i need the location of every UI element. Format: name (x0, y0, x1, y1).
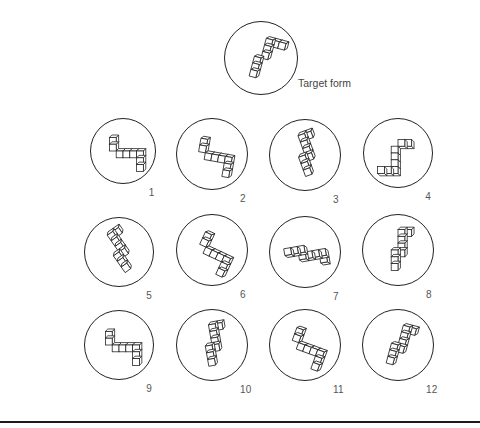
option-circle-3 (269, 119, 341, 191)
cube-chain-shape-icon (363, 215, 433, 285)
cube-chain-shape-icon (363, 310, 433, 380)
cube-chain-shape-icon (85, 218, 153, 286)
option-circle-12 (362, 309, 434, 381)
option-number-9: 9 (146, 384, 152, 394)
option-number-10: 10 (240, 385, 251, 395)
option-circle-8 (362, 214, 434, 286)
option-number-12: 12 (426, 385, 437, 395)
option-number-2: 2 (240, 194, 246, 204)
option-circle-6 (176, 214, 248, 286)
option-number-6: 6 (240, 290, 246, 300)
target-form-label: Target form (298, 78, 351, 89)
option-circle-10 (176, 309, 248, 381)
option-number-5: 5 (146, 291, 152, 301)
cube-chain-shape-icon (85, 311, 153, 379)
option-number-8: 8 (426, 290, 432, 300)
option-number-7: 7 (333, 292, 339, 302)
option-circle-7 (269, 216, 341, 288)
cube-chain-shape-icon (225, 22, 297, 94)
option-circle-11 (269, 309, 341, 381)
bottom-rule (0, 421, 480, 423)
option-circle-9 (84, 310, 154, 380)
option-circle-5 (84, 217, 154, 287)
mental-rotation-figure: Target form 1 2 3 4 5 6 7 8 9 10 11 12 (0, 0, 480, 428)
cube-chain-shape-icon (177, 119, 247, 189)
option-circle-1 (90, 118, 156, 184)
option-number-3: 3 (333, 195, 339, 205)
cube-chain-shape-icon (91, 119, 155, 183)
option-number-4: 4 (425, 192, 431, 202)
option-circle-4 (363, 118, 433, 188)
cube-chain-shape-icon (270, 120, 340, 190)
target-form-circle (224, 21, 298, 95)
cube-chain-shape-icon (270, 217, 340, 287)
cube-chain-shape-icon (177, 310, 247, 380)
cube-chain-shape-icon (364, 119, 432, 187)
option-number-1: 1 (149, 188, 155, 198)
cube-chain-shape-icon (177, 215, 247, 285)
cube-chain-shape-icon (270, 310, 340, 380)
option-circle-2 (176, 118, 248, 190)
option-number-11: 11 (333, 385, 343, 395)
